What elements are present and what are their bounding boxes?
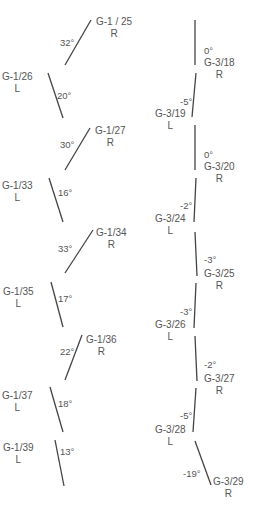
segment-label: G-1 / 25R [96,16,132,40]
segment-id: G-3/19 [155,108,186,120]
angle-label: 0° [204,45,213,56]
angle-label: 30° [60,139,74,150]
segment-side: L [155,436,186,448]
segment-id: G-1/26 [2,71,33,83]
segment-line [65,335,82,380]
segment-side: R [86,346,117,358]
angle-label: 20° [57,90,71,101]
segment-id: G-1/39 [3,442,34,454]
segment-label: G-1/34R [96,227,127,251]
segment-side: L [3,298,34,310]
segment-id: G-3/20 [204,161,235,173]
segment-label: G-1/35L [3,286,34,310]
segment-label: G-3/29R [213,476,244,500]
segment-id: G-1/36 [86,334,117,346]
segment-side: L [155,120,186,132]
angle-label: 32° [60,37,74,48]
segment-label: G-3/18R [204,57,235,81]
segment-id: G-1/37 [2,390,33,402]
angle-label: -5° [180,96,192,107]
segment-id: G-3/18 [204,57,235,69]
segment-side: R [96,28,132,40]
segment-label: G-1/37L [2,390,33,414]
segment-side: L [2,83,33,95]
segment-id: G-3/25 [204,268,235,280]
segment-line [195,336,197,381]
segment-id: G-1/33 [2,180,33,192]
segment-id: G-1/27 [95,125,126,137]
angle-label: -3° [180,306,192,317]
segment-label: G-3/19L [155,108,186,132]
segment-line [49,178,63,222]
segment-label: G-3/24L [155,213,186,237]
segment-line [194,283,196,328]
segment-line [195,232,197,276]
segment-label: G-1/36R [86,334,117,358]
angle-label: 18° [58,398,72,409]
segment-line [51,282,63,327]
segment-label: G-3/20R [204,161,235,185]
segment-label: G-1/39L [3,442,34,466]
segment-line [194,178,196,222]
segment-id: G-1/34 [96,227,127,239]
angle-label: -5° [180,410,192,421]
angle-label: 0° [204,149,213,160]
segment-side: R [95,137,126,149]
segment-side: R [204,385,235,397]
segment-side: L [155,331,186,343]
segment-label: G-1/27R [95,125,126,149]
angle-label: 17° [58,293,72,304]
segment-id: G-1 / 25 [96,16,132,28]
segment-side: R [204,69,235,81]
segment-label: G-3/27R [204,373,235,397]
segment-label: G-1/33L [2,180,33,204]
segment-line [50,387,63,432]
angle-label: 33° [58,243,72,254]
segment-id: G-3/24 [155,213,186,225]
angle-label: 13° [60,446,74,457]
segment-line [193,388,196,432]
segment-label: G-3/28L [155,424,186,448]
segment-side: L [3,454,34,466]
segment-side: R [204,280,235,292]
segment-side: R [204,173,235,185]
segment-id: G-3/28 [155,424,186,436]
segment-label: G-3/26L [155,319,186,343]
angle-label: -2° [204,359,216,370]
angle-label: -2° [180,200,192,211]
segment-label: G-1/26L [2,71,33,95]
segment-side: L [2,402,33,414]
segment-id: G-3/29 [213,476,244,488]
segment-side: L [155,225,186,237]
angle-label: -19° [183,468,201,479]
segment-id: G-3/27 [204,373,235,385]
segment-line [192,73,196,117]
angle-label: 16° [58,187,72,198]
segment-id: G-1/35 [3,286,34,298]
segment-side: R [213,488,244,500]
segment-side: L [2,192,33,204]
segment-id: G-3/26 [155,319,186,331]
angle-label: -3° [204,254,216,265]
segment-label: G-3/25R [204,268,235,292]
angle-label: 22° [60,346,74,357]
segment-side: R [96,239,127,251]
